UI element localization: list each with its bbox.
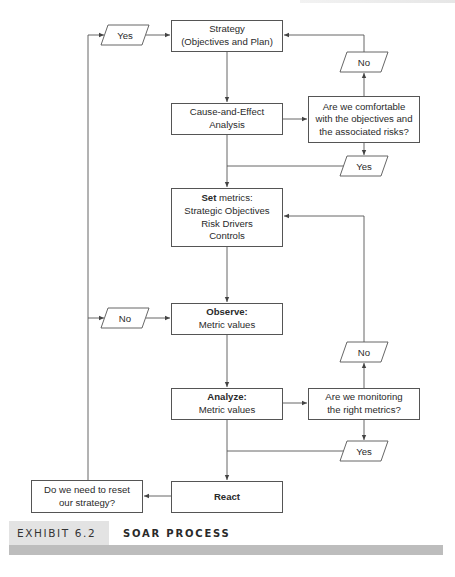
node-text: metrics: — [216, 192, 252, 203]
node-text: Cause-and-Effect — [190, 106, 264, 119]
node-observe: Observe: Metric values — [171, 303, 283, 335]
node-text: Are we monitoring — [325, 391, 402, 404]
decision-label: No — [358, 347, 370, 358]
node-text-bold: React — [214, 491, 240, 504]
node-analyze: Analyze: Metric values — [171, 388, 283, 420]
exhibit-title: SOAR PROCESS — [123, 521, 231, 545]
node-text: Controls — [209, 230, 245, 243]
node-text: (Objectives and Plan) — [181, 36, 273, 49]
node-text: our strategy? — [59, 497, 115, 510]
exhibit-caption: EXHIBIT 6.2 SOAR PROCESS — [9, 521, 443, 554]
node-text: the associated risks? — [319, 126, 409, 139]
node-text: Metric values — [199, 404, 256, 417]
node-text: Set metrics: — [201, 192, 252, 205]
node-strategy: Strategy (Objectives and Plan) — [171, 20, 283, 52]
decision-no-monitoring: No — [340, 342, 388, 362]
node-text: the right metrics? — [327, 404, 401, 417]
decision-label: Yes — [356, 161, 372, 172]
exhibit-number: EXHIBIT 6.2 — [9, 521, 109, 545]
decision-yes-comfortable: Yes — [340, 156, 388, 176]
node-question-monitoring: Are we monitoring the right metrics? — [308, 388, 420, 420]
node-cause-effect-analysis: Cause-and-Effect Analysis — [171, 103, 283, 135]
node-text: Strategic Objectives — [184, 205, 269, 218]
decision-label: No — [358, 57, 370, 68]
node-set-metrics: Set metrics: Strategic Objectives Risk D… — [171, 188, 283, 247]
node-text: Are we comfortable — [323, 101, 406, 114]
decision-no-reset-strategy: No — [101, 308, 149, 328]
node-text: Do we need to reset — [44, 484, 130, 497]
decision-yes-reset-strategy: Yes — [101, 25, 149, 45]
node-text-bold: Set — [201, 192, 216, 203]
node-text-bold: Analyze: — [207, 391, 246, 404]
decision-label: Yes — [356, 446, 372, 457]
decision-label: No — [119, 313, 131, 324]
decision-yes-monitoring: Yes — [340, 441, 388, 461]
node-text: with the objectives and — [315, 113, 412, 126]
caption-rule — [9, 545, 443, 555]
node-question-reset-strategy: Do we need to reset our strategy? — [31, 480, 143, 513]
node-text: Analysis — [209, 119, 245, 132]
node-text: Strategy — [209, 23, 245, 36]
decision-label: Yes — [117, 30, 133, 41]
node-text-bold: Observe: — [206, 306, 248, 319]
node-text: Metric values — [199, 319, 256, 332]
node-text: Risk Drivers — [201, 218, 253, 231]
node-react: React — [171, 481, 283, 513]
node-question-comfortable: Are we comfortable with the objectives a… — [308, 96, 420, 143]
decision-no-comfortable: No — [340, 52, 388, 72]
